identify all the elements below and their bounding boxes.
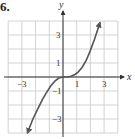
y-tick-label: 1	[56, 58, 61, 68]
x-tick-label: 3	[102, 79, 107, 89]
x-tick-label: 1	[75, 79, 80, 89]
x-tick-label: −3	[17, 79, 27, 89]
y-axis-label: y	[58, 0, 64, 10]
x-axis-label: x	[126, 71, 132, 82]
cubic-graph: x y −31331−1−3	[0, 0, 135, 139]
y-tick-label: 3	[56, 30, 61, 40]
axes: x y	[4, 0, 132, 137]
y-tick-label: −1	[52, 86, 62, 96]
y-tick-label: −3	[52, 114, 62, 124]
curve	[27, 22, 100, 133]
